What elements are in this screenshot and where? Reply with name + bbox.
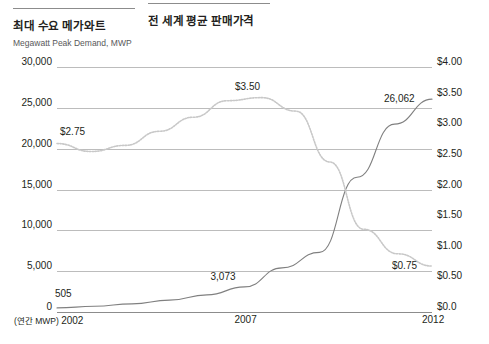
y-tick-right: $2.50: [437, 148, 462, 159]
data-point-label: $3.50: [235, 81, 260, 92]
data-point-label: 505: [55, 288, 72, 299]
y-tick-right: $0.50: [437, 270, 462, 281]
plot-area: [57, 67, 432, 312]
y-tick-left: 0: [46, 301, 52, 312]
gridline: [57, 312, 432, 313]
y-tick-right: $1.00: [437, 240, 462, 251]
x-tick-label: 2002: [61, 315, 83, 326]
header-price: 전 세계 평균 판매가격: [148, 3, 270, 28]
y-tick-left: 25,000: [21, 97, 52, 108]
y-tick-left: 15,000: [21, 179, 52, 190]
data-point-label: $0.75: [392, 260, 417, 271]
x-tick: (연간 MWP) 2002: [14, 314, 83, 326]
y-tick-right: $2.00: [437, 179, 462, 190]
y-tick-right: $1.50: [437, 209, 462, 220]
y-tick-right: $0.0: [437, 301, 456, 312]
header-demand: 최대 수요 메가와트 Megawatt Peak Demand, MWP: [13, 8, 135, 48]
y-tick-left: 10,000: [21, 219, 52, 230]
y-tick-right: $4.00: [437, 56, 462, 67]
header-demand-subtitle-en: Megawatt Peak Demand, MWP: [13, 38, 135, 48]
x-tick: 2007: [235, 314, 257, 325]
series-line: [57, 99, 432, 308]
data-point-label: 26,062: [384, 93, 415, 104]
y-tick-left: 30,000: [21, 56, 52, 67]
chart-screenshot: 최대 수요 메가와트 Megawatt Peak Demand, MWP 전 세…: [0, 0, 489, 344]
y-tick-left: 5,000: [27, 260, 52, 271]
y-tick-right: $3.50: [437, 87, 462, 98]
header-price-title-ko: 전 세계 평균 판매가격: [148, 12, 270, 28]
series-line: [57, 98, 432, 266]
x-tick: 2012: [422, 314, 444, 325]
data-point-label: $2.75: [60, 126, 85, 137]
header-demand-title-ko: 최대 수요 메가와트: [13, 17, 135, 33]
y-tick-left: 20,000: [21, 138, 52, 149]
y-tick-right: $3.00: [437, 117, 462, 128]
chart-lines: [57, 67, 432, 312]
header-demand-rule: [13, 8, 135, 9]
x-axis-unit-label: (연간 MWP): [14, 316, 61, 326]
header-price-rule: [148, 3, 270, 4]
data-point-label: 3,073: [211, 271, 236, 282]
